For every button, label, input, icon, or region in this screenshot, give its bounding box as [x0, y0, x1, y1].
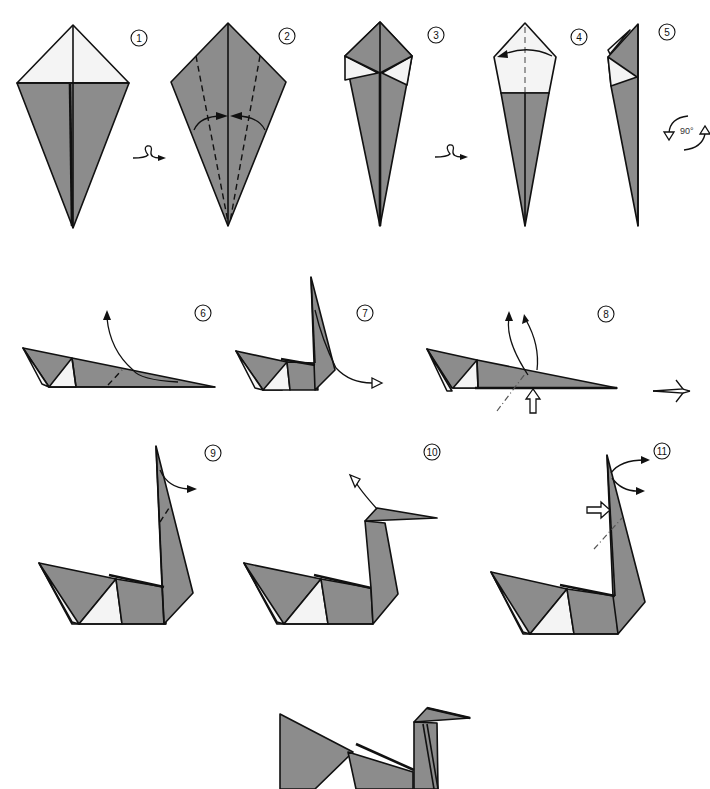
push-arrow-icon	[526, 389, 540, 413]
step-1-label: 1	[136, 33, 142, 44]
step-9-figure	[39, 446, 197, 624]
rotate-label: 90°	[680, 126, 694, 136]
step-9-label: 9	[210, 448, 216, 459]
step-5-label: 5	[664, 27, 670, 38]
step-6-label: 6	[200, 308, 206, 319]
step-1-number: 1	[131, 30, 147, 46]
push-arrow-icon	[587, 502, 610, 518]
step-4-label: 4	[576, 32, 582, 43]
step-5-figure	[608, 24, 638, 226]
step-11-label: 11	[657, 446, 668, 457]
step-5-number: 5	[659, 24, 675, 40]
step-8-number: 8	[598, 306, 614, 322]
step-2-number: 2	[279, 28, 295, 44]
step-10-label: 10	[426, 447, 438, 458]
diagram-canvas: 1 2 3	[0, 0, 710, 789]
step-10-figure	[244, 475, 437, 624]
step-6-number: 6	[195, 305, 211, 321]
step-4-figure	[494, 23, 556, 226]
step-11-number: 11	[654, 443, 670, 459]
step-4-number: 4	[571, 29, 587, 45]
step-7-label: 7	[362, 308, 368, 319]
turn-over-icon	[435, 145, 468, 160]
step-8-figure	[427, 311, 617, 413]
step-3-label: 3	[433, 30, 439, 41]
step-2-label: 2	[284, 31, 290, 42]
step-9-number: 9	[205, 445, 221, 461]
step-3-figure	[345, 22, 412, 226]
step-8-label: 8	[603, 309, 609, 320]
step-11-figure	[491, 455, 650, 634]
step-7-figure	[236, 277, 382, 390]
turn-over-icon	[133, 146, 166, 161]
step-7-number: 7	[357, 305, 373, 321]
step-10-number: 10	[424, 444, 440, 460]
rotate-90-icon: 90°	[664, 116, 710, 150]
step-3-number: 3	[428, 27, 444, 43]
step-6-figure	[23, 310, 215, 387]
step-2-figure	[171, 23, 286, 226]
final-swan-figure	[280, 708, 470, 789]
step-1-figure	[17, 25, 129, 228]
next-view-arrow-icon	[653, 380, 690, 402]
